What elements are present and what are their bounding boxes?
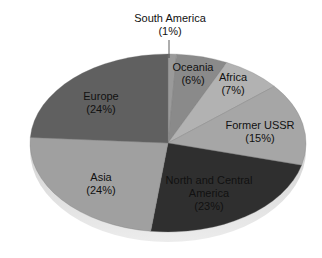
label-africa: Africa (7%) (219, 71, 247, 97)
label-former-ussr: Former USSR (15%) (225, 119, 294, 145)
label-oceania: Oceania (6%) (173, 61, 214, 87)
label-asia: Asia (24%) (86, 171, 115, 197)
label-south-america: South America (1%) (134, 12, 206, 38)
label-north-central-america: North and Central America (23%) (166, 174, 253, 213)
label-europe: Europe (24%) (83, 90, 118, 116)
